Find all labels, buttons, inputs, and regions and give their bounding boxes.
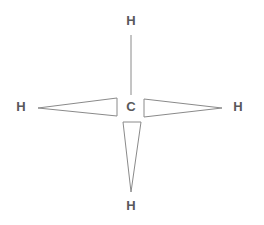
methane-structure-diagram: C H H H H [0,0,264,225]
atom-label-hydrogen-bottom: H [122,199,140,212]
atom-label-hydrogen-top: H [122,14,140,27]
bond-c-h-right-wedge [144,99,222,117]
atom-label-hydrogen-right: H [229,100,247,113]
bond-c-h-left-wedge [38,98,117,116]
atom-label-hydrogen-left: H [12,100,30,113]
atom-label-carbon-center: C [122,100,140,113]
bond-c-h-bottom-wedge [123,122,141,192]
